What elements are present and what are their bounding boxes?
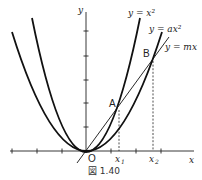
point-A: A: [109, 98, 116, 109]
marker-x2: x 2: [149, 154, 159, 165]
x-axis-label: x: [189, 155, 194, 165]
figure-caption: 図 1.40: [88, 166, 120, 176]
figure-diagram: A B y = x² y = ax² y = mx y x O x 1 x 2 …: [0, 0, 202, 180]
svg-text:2: 2: [154, 158, 159, 165]
svg-text:x: x: [115, 154, 120, 164]
point-B-label: B: [143, 48, 150, 59]
point-B: B: [143, 48, 150, 59]
svg-text:1: 1: [121, 158, 125, 165]
label-line: y = mx: [164, 42, 197, 52]
curve-line: [77, 37, 169, 163]
x-axis: [10, 149, 194, 154]
y-axis: [84, 12, 89, 151]
y-axis-label: y: [77, 5, 84, 15]
point-A-label: A: [109, 98, 116, 109]
svg-text:x: x: [149, 154, 154, 164]
origin-label: O: [88, 153, 96, 164]
curve-wide-parabola: [12, 32, 162, 151]
marker-x1: x 1: [115, 154, 125, 165]
label-wide-parabola: y = ax²: [148, 24, 182, 34]
label-steep-parabola: y = x²: [127, 8, 155, 18]
